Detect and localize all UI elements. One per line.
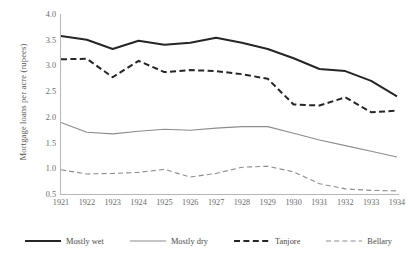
x-axis-line xyxy=(60,194,399,195)
plot-area xyxy=(60,14,398,194)
series-line-bellary xyxy=(61,166,397,191)
chart-legend: Mostly wetMostly dryTanjoreBellary xyxy=(0,231,417,251)
legend-swatch xyxy=(234,236,270,246)
legend-item-mostly-wet[interactable]: Mostly wet xyxy=(25,236,104,246)
legend-swatch xyxy=(25,236,61,246)
legend-item-tanjore[interactable]: Tanjore xyxy=(234,236,300,246)
y-tick-label: 1.0 xyxy=(16,164,56,173)
y-tick-label: 3.0 xyxy=(16,61,56,70)
series-line-mostly-wet xyxy=(61,36,397,96)
x-axis-tick-labels: 1921192219231924192519261927192819291930… xyxy=(60,198,398,212)
legend-label: Tanjore xyxy=(275,237,300,246)
legend-label: Mostly dry xyxy=(171,237,208,246)
x-tick-label: 1934 xyxy=(377,198,417,207)
series-line-mostly-dry xyxy=(61,123,397,157)
y-tick-label: 1.5 xyxy=(16,138,56,147)
legend-item-bellary[interactable]: Bellary xyxy=(326,236,392,246)
legend-label: Bellary xyxy=(367,237,392,246)
series-layer xyxy=(60,14,398,194)
y-tick-label: 2.5 xyxy=(16,87,56,96)
legend-swatch xyxy=(130,236,166,246)
series-line-tanjore xyxy=(61,59,397,112)
y-axis-tick-labels: 0.51.01.52.02.53.03.54.0 xyxy=(12,14,56,194)
legend-swatch xyxy=(326,236,362,246)
mortgage-loans-line-chart: Mortgage loans per acre (rupees) 0.51.01… xyxy=(0,0,417,258)
legend-item-mostly-dry[interactable]: Mostly dry xyxy=(130,236,208,246)
legend-label: Mostly wet xyxy=(66,237,104,246)
y-tick-label: 3.5 xyxy=(16,35,56,44)
y-tick-label: 4.0 xyxy=(16,10,56,19)
y-tick-label: 2.0 xyxy=(16,112,56,121)
